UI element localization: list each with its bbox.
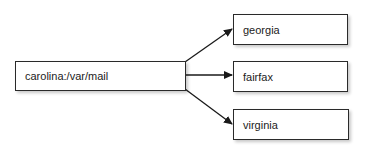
edge-to-georgia bbox=[185, 29, 232, 62]
target-label: fairfax bbox=[243, 71, 273, 83]
target-label: virginia bbox=[243, 119, 278, 131]
source-label: carolina:/var/mail bbox=[25, 70, 108, 82]
target-node-georgia: georgia bbox=[233, 14, 348, 45]
target-label: georgia bbox=[243, 24, 280, 36]
target-node-fairfax: fairfax bbox=[233, 61, 348, 92]
edge-to-virginia bbox=[185, 89, 232, 124]
source-node: carolina:/var/mail bbox=[15, 61, 186, 91]
target-node-virginia: virginia bbox=[233, 109, 349, 140]
